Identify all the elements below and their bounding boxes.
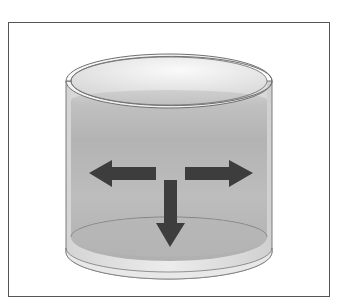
container-interior <box>71 57 267 110</box>
cylinder-pressure-diagram <box>0 0 351 307</box>
